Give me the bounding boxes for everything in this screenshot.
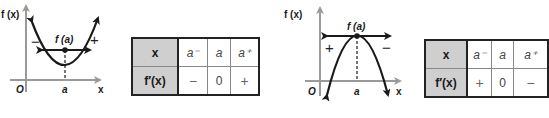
table-row: x a⁻ a a⁺	[425, 40, 548, 69]
cell-zero: 0	[208, 67, 231, 96]
cell-a: a	[492, 40, 514, 69]
origin-label: O	[16, 85, 24, 95]
table-row: f′(x) − 0 +	[132, 67, 259, 96]
origin-label: O	[308, 87, 316, 97]
x-axis-label: x	[396, 87, 402, 97]
cell-a-plus: a⁺	[231, 38, 260, 67]
row-header-x: x	[132, 38, 178, 67]
cell-sign-right: −	[514, 69, 549, 98]
maximum-graph: f (x) f (a) + − O a x	[270, 0, 405, 118]
minimum-graph: f (x) f (a) − + O a x	[0, 0, 125, 118]
x-axis-label: x	[98, 85, 104, 95]
table-row: f′(x) + 0 −	[425, 69, 548, 98]
row-header-derivative: f′(x)	[132, 67, 178, 96]
point-label: f (a)	[347, 22, 365, 32]
x-point-label: a	[354, 87, 360, 97]
row-header-derivative: f′(x)	[425, 69, 467, 98]
right-sign: −	[382, 40, 391, 55]
row-header-x: x	[425, 40, 467, 69]
maximum-sign-table: x a⁻ a a⁺ f′(x) + 0 −	[424, 39, 549, 98]
left-sign: −	[31, 34, 40, 49]
table-row: x a⁻ a a⁺	[132, 38, 259, 67]
cell-sign-right: +	[231, 67, 260, 96]
cell-a-minus: a⁻	[467, 40, 492, 69]
cell-sign-left: −	[178, 67, 208, 96]
y-axis-label: f (x)	[1, 10, 19, 20]
minimum-sign-table: x a⁻ a a⁺ f′(x) − 0 +	[131, 37, 260, 96]
cell-sign-left: +	[467, 69, 492, 98]
cell-a-plus: a⁺	[514, 40, 549, 69]
cell-a-minus: a⁻	[178, 38, 208, 67]
cell-a: a	[208, 38, 231, 67]
left-sign: +	[325, 40, 334, 55]
right-sign: +	[90, 32, 99, 47]
cell-zero: 0	[492, 69, 514, 98]
x-point-label: a	[62, 85, 68, 95]
y-axis-label: f (x)	[284, 10, 302, 20]
point-label: f (a)	[55, 35, 73, 45]
